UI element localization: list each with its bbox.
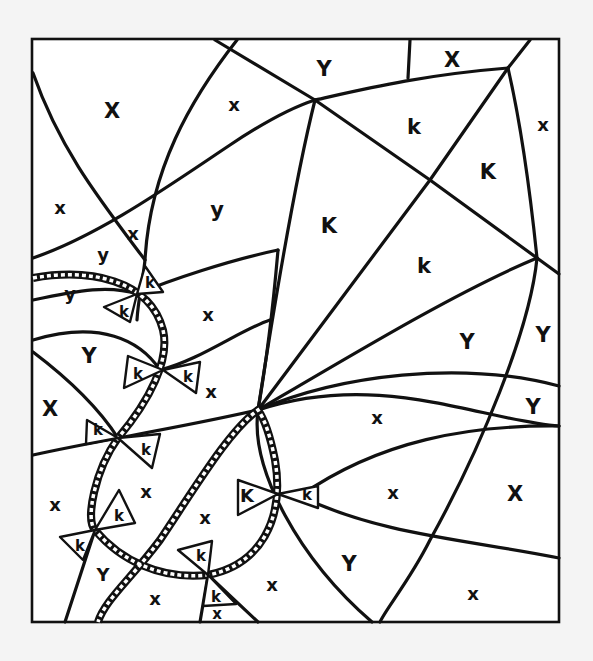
region-letter: k <box>417 256 431 277</box>
region-letter: x <box>199 509 211 527</box>
region-letter: K <box>480 162 496 183</box>
region-letter: k <box>133 367 143 382</box>
kite-line-art <box>0 0 593 661</box>
region-letter: K <box>240 487 254 505</box>
region-letter: x <box>127 225 139 243</box>
region-letter: x <box>467 585 479 603</box>
region-letter: Y <box>525 397 540 418</box>
region-letter: k <box>145 276 155 291</box>
region-letter: k <box>302 488 312 503</box>
region-letter: x <box>205 383 217 401</box>
region-letter: x <box>202 306 214 324</box>
region-letter: x <box>266 576 278 594</box>
region-letter: k <box>407 117 421 138</box>
region-letter: x <box>54 199 66 217</box>
region-letter: k <box>183 370 193 385</box>
region-letter: k <box>196 549 206 564</box>
region-letter: x <box>49 496 61 514</box>
region-letter: y <box>64 285 76 303</box>
region-letter: X <box>104 101 120 122</box>
region-letter: X <box>507 484 523 505</box>
region-letter: y <box>210 200 224 221</box>
region-letter: x <box>149 590 161 608</box>
region-letter: k <box>114 509 124 524</box>
region-letter: Y <box>81 346 96 367</box>
region-letter: x <box>537 116 549 134</box>
region-letter: Y <box>535 325 550 346</box>
top-divider <box>408 40 410 78</box>
region-letter: Y <box>96 566 109 584</box>
region-letter: x <box>228 96 240 114</box>
region-letter: x <box>371 409 383 427</box>
region-letter: k <box>211 590 221 605</box>
region-letter: Y <box>316 59 331 80</box>
region-letter: k <box>75 539 85 554</box>
coloring-page: XxYXkxKxyKxykykkxYYYkkxXYxkkxKkxXxkxkkYY… <box>0 0 593 661</box>
region-letter: k <box>119 305 129 320</box>
region-letter: x <box>212 607 222 622</box>
region-letter: y <box>97 246 109 264</box>
region-letter: Y <box>341 554 356 575</box>
region-letter: Y <box>459 332 474 353</box>
region-letter: K <box>321 216 337 237</box>
region-letter: k <box>141 443 151 458</box>
region-letter: X <box>42 399 58 420</box>
region-letter: k <box>93 423 103 438</box>
region-letter: x <box>387 484 399 502</box>
region-letter: x <box>140 483 152 501</box>
region-letter: X <box>444 50 460 71</box>
